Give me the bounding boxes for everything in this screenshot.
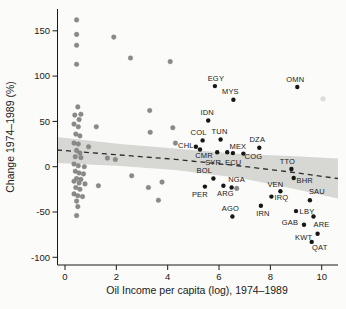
country-label-MEX: MEX bbox=[229, 142, 246, 151]
faint-point bbox=[320, 96, 325, 101]
y-axis-title: Change 1974–1989 (%) bbox=[4, 81, 16, 193]
x-tick-label: 2 bbox=[114, 271, 119, 282]
gray-point bbox=[147, 108, 152, 113]
gray-point bbox=[76, 204, 81, 209]
country-label-PER: PER bbox=[192, 190, 208, 199]
country-point-AGO bbox=[230, 214, 234, 218]
country-label-OMN: OMN bbox=[286, 75, 304, 84]
y-tick-label: -100 bbox=[31, 252, 50, 263]
x-tick-label: 10 bbox=[316, 271, 327, 282]
country-point-IRN bbox=[259, 204, 263, 208]
country-label-ECU: ECU bbox=[225, 158, 241, 167]
country-label-TUN: TUN bbox=[212, 127, 228, 136]
gray-point bbox=[156, 198, 161, 203]
country-label-IRN: IRN bbox=[256, 209, 270, 218]
country-label-EGY: EGY bbox=[208, 74, 224, 83]
gray-point bbox=[74, 43, 79, 48]
country-label-TTO: TTO bbox=[280, 157, 295, 166]
y-tick-label: 100 bbox=[34, 70, 50, 81]
gray-point bbox=[77, 117, 82, 122]
country-point-ARG bbox=[221, 184, 225, 188]
gray-point bbox=[82, 164, 87, 169]
country-point-LBY bbox=[294, 209, 298, 213]
y-tick-label: 0 bbox=[45, 161, 50, 172]
gray-point bbox=[76, 125, 81, 130]
gray-point bbox=[96, 183, 101, 188]
gray-point bbox=[76, 105, 81, 110]
country-label-BHR: BHR bbox=[296, 176, 313, 185]
gray-point bbox=[112, 35, 117, 40]
gray-point bbox=[171, 125, 176, 130]
country-point-DZA bbox=[257, 146, 261, 150]
y-tick-label: 50 bbox=[39, 116, 50, 127]
gray-point bbox=[128, 56, 133, 61]
country-label-BOL: BOL bbox=[197, 166, 213, 175]
country-label-QAT: QAT bbox=[312, 243, 328, 252]
country-point-CHL bbox=[194, 145, 198, 149]
country-point-TTO bbox=[289, 167, 293, 171]
country-point-IRQ bbox=[269, 194, 273, 198]
country-label-ARE: ARE bbox=[313, 220, 329, 229]
gray-point bbox=[78, 151, 83, 156]
country-label-IRQ: IRQ bbox=[274, 193, 288, 202]
gray-point bbox=[113, 157, 118, 162]
gray-point bbox=[168, 59, 173, 64]
gray-point bbox=[77, 171, 82, 176]
country-point-SYR bbox=[215, 150, 219, 154]
country-label-COG: COG bbox=[245, 152, 263, 161]
y-tick-label: 150 bbox=[34, 25, 50, 36]
country-label-IDN: IDN bbox=[200, 108, 214, 117]
gray-point bbox=[129, 174, 134, 179]
gray-point bbox=[72, 162, 77, 167]
y-tick-label: -50 bbox=[36, 206, 50, 217]
gray-point bbox=[79, 155, 84, 160]
country-point-EGY bbox=[213, 84, 217, 88]
gray-point bbox=[80, 194, 85, 199]
gray-point bbox=[79, 112, 84, 117]
gray-point bbox=[72, 179, 77, 184]
gray-point bbox=[73, 113, 78, 118]
gray-point bbox=[160, 180, 165, 185]
gray-point bbox=[105, 156, 110, 161]
country-point-SAU bbox=[308, 198, 312, 202]
country-point-KWT bbox=[315, 232, 319, 236]
gray-point bbox=[74, 18, 79, 23]
country-label-MYS: MYS bbox=[222, 87, 239, 96]
gray-point bbox=[76, 193, 81, 198]
gray-point bbox=[148, 130, 153, 135]
gray-point bbox=[73, 154, 78, 159]
country-point-PER bbox=[203, 184, 207, 188]
gray-point bbox=[83, 182, 88, 187]
country-label-SAU: SAU bbox=[309, 187, 325, 196]
gray-point bbox=[74, 213, 79, 218]
country-point-OMN bbox=[295, 85, 299, 89]
gray-point bbox=[74, 199, 79, 204]
x-axis-title: Oil Income per capita (log), 1974–1989 bbox=[106, 284, 288, 296]
country-point-COL bbox=[200, 138, 204, 142]
country-label-COL: COL bbox=[191, 128, 207, 137]
gray-point bbox=[94, 125, 99, 130]
x-tick-label: 4 bbox=[165, 271, 170, 282]
x-tick-label: 8 bbox=[268, 271, 273, 282]
scatter-chart: 150100500-50-1000246810Oil Income per ca… bbox=[0, 0, 346, 309]
gray-point bbox=[74, 32, 79, 37]
gray-point bbox=[76, 164, 81, 169]
gray-point bbox=[78, 134, 83, 139]
country-point-BHR bbox=[292, 176, 296, 180]
country-label-CHL: CHL bbox=[178, 141, 194, 150]
gray-point bbox=[72, 141, 77, 146]
country-point-BOL bbox=[211, 176, 215, 180]
gray-point bbox=[76, 142, 81, 147]
country-label-ARG: ARG bbox=[217, 189, 234, 198]
oil-democracy-scatter-figure: 150100500-50-1000246810Oil Income per ca… bbox=[0, 0, 346, 309]
gray-point bbox=[234, 186, 239, 191]
unlabeled-points bbox=[72, 18, 239, 218]
country-label-DZA: DZA bbox=[249, 135, 265, 144]
gray-point bbox=[81, 172, 86, 177]
gray-point bbox=[74, 62, 79, 67]
country-point-ARE bbox=[311, 214, 315, 218]
country-label-AGO: AGO bbox=[222, 204, 239, 213]
country-point-TUN bbox=[218, 137, 222, 141]
country-label-LBY: LBY bbox=[300, 207, 315, 216]
country-point-MEX bbox=[231, 151, 235, 155]
